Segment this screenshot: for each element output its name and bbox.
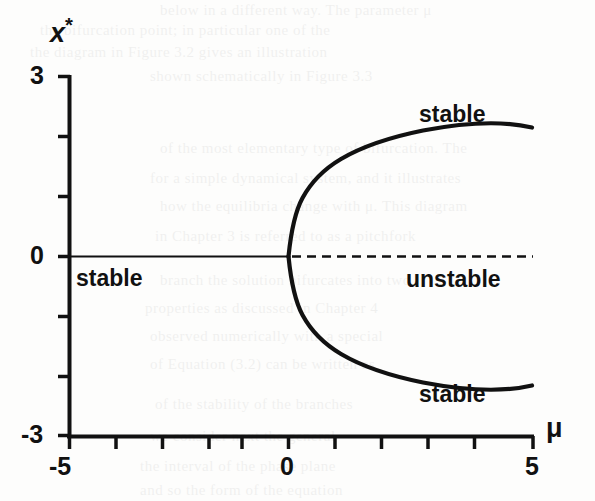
y-tick-label-minus3: -3: [21, 420, 43, 449]
annotation-stable-left: stable: [76, 265, 142, 292]
y-tick-label-0: 0: [30, 241, 44, 270]
branch-upper-stable: [289, 123, 533, 256]
y-axis-label-text: x: [50, 18, 65, 48]
x-tick-label-5: 5: [525, 452, 539, 481]
annotation-stable-lower: stable: [419, 381, 485, 408]
annotation-unstable-right: unstable: [406, 266, 501, 293]
y-tick-label-3: 3: [30, 61, 44, 90]
x-tick-label-minus5: -5: [49, 452, 71, 481]
annotation-stable-upper: stable: [419, 101, 485, 128]
bifurcation-plot: [0, 0, 595, 501]
y-axis-label: x*: [50, 14, 73, 49]
y-axis-label-superscript: *: [65, 14, 73, 36]
figure-page: below in a different way. The parameter …: [0, 0, 595, 501]
x-axis-label: μ: [546, 413, 563, 444]
x-tick-label-0: 0: [280, 452, 294, 481]
